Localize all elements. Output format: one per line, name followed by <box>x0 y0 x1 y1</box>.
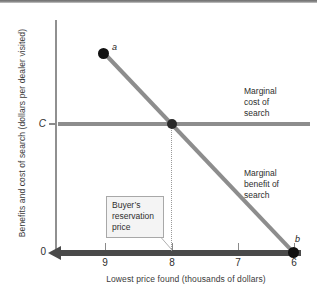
y-tick-label-zero: 0 <box>22 246 46 257</box>
x-tick-label-7: 7 <box>228 257 248 268</box>
point-label-a: a <box>112 42 117 52</box>
marginal-cost-annotation-line2: cost of <box>244 97 277 108</box>
x-axis-left-arrow-icon <box>48 246 61 260</box>
x-tick-label-9: 9 <box>95 257 115 268</box>
marginal-cost-annotation-line1: Marginal <box>244 86 277 97</box>
x-tick-mark-7 <box>238 243 239 250</box>
equilibrium-point <box>167 119 177 129</box>
marginal-benefit-annotation-line3: search <box>244 190 279 201</box>
economics-search-chart: Benefits and cost of search (dollars per… <box>0 0 317 289</box>
x-axis-line <box>60 250 301 256</box>
marginal-benefit-annotation-line2: benefit of <box>244 179 279 190</box>
reservation-price-callout: Buyer’s reservation price <box>106 196 164 238</box>
marginal-cost-annotation: Marginal cost of search <box>244 86 277 119</box>
y-axis-title: Benefits and cost of search (dollars per… <box>17 8 27 258</box>
y-tick-mark-c <box>49 123 56 125</box>
callout-line3: price <box>112 222 159 233</box>
y-axis-line <box>55 20 57 254</box>
marginal-benefit-annotation-line1: Marginal <box>244 168 279 179</box>
x-tick-mark-9 <box>105 243 106 250</box>
top-divider <box>0 0 317 3</box>
callout-line1: Buyer’s <box>112 200 159 211</box>
point-label-b: b <box>295 234 300 244</box>
marginal-cost-curve <box>58 122 310 126</box>
callout-line2: reservation <box>112 211 159 222</box>
y-tick-label-c: C <box>22 118 46 129</box>
marginal-cost-annotation-line3: search <box>244 108 277 119</box>
x-axis-title: Lowest price found (thousands of dollars… <box>60 274 312 284</box>
curve-endpoint-a <box>98 48 109 59</box>
marginal-benefit-annotation: Marginal benefit of search <box>244 168 279 201</box>
x-tick-mark-8 <box>172 243 173 250</box>
curve-endpoint-b <box>288 247 299 258</box>
x-tick-label-8: 8 <box>162 257 182 268</box>
reservation-price-drop-line <box>171 128 172 251</box>
x-tick-label-6: 6 <box>284 257 304 268</box>
